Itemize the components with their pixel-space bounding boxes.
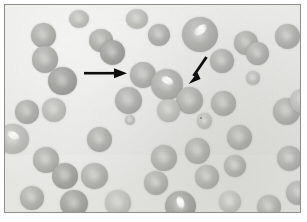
red-blood-cell [52, 163, 78, 189]
red-blood-cell [224, 155, 246, 177]
micrograph-figure: Peripheral blood smear photomicrograph [0, 0, 307, 222]
red-blood-cell [195, 165, 219, 189]
red-blood-cell [105, 190, 131, 212]
intracellular-crystal [175, 195, 186, 210]
red-blood-cell [257, 195, 281, 212]
red-blood-cell [60, 190, 88, 212]
red-blood-cell [81, 163, 108, 189]
red-blood-cell [144, 171, 168, 195]
red-blood-cell [20, 186, 44, 210]
red-blood-cell [219, 191, 241, 212]
image-frame [4, 4, 301, 213]
microscope-field [5, 5, 300, 212]
film-grain [5, 5, 300, 155]
